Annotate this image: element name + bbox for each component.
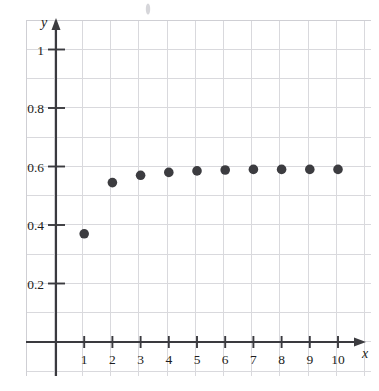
data-point (164, 168, 174, 178)
data-point (249, 165, 259, 175)
data-point (220, 165, 230, 175)
data-point (108, 178, 118, 188)
y-tick-label-1: 1 (37, 43, 44, 58)
chart-screenshot: 12345678910 0.20.40.60.81 x y (0, 0, 379, 391)
y-tick-label-0.6: 0.6 (27, 160, 44, 175)
data-point (333, 165, 343, 175)
x-tick-label-7: 7 (250, 352, 257, 367)
plot-surface: 12345678910 0.20.40.60.81 x y (0, 0, 379, 391)
paper-smudge-artifact (146, 4, 150, 15)
scatter-plot-svg: 12345678910 0.20.40.60.81 x y (0, 0, 379, 391)
data-point-group (79, 165, 342, 239)
x-tick-label-8: 8 (278, 352, 285, 367)
x-tick-label-4: 4 (165, 352, 172, 367)
x-tick-label-3: 3 (137, 352, 144, 367)
x-tick-label-5: 5 (194, 352, 201, 367)
x-tick-label-6: 6 (222, 352, 229, 367)
data-point (136, 171, 146, 181)
vertical-gridlines (26, 20, 364, 376)
y-tick-label-0.2: 0.2 (27, 277, 44, 292)
data-point (277, 165, 287, 175)
x-tick-label-10: 10 (331, 352, 345, 367)
horizontal-gridlines (26, 20, 371, 371)
data-point (192, 166, 202, 176)
x-tick-label-9: 9 (306, 352, 313, 367)
data-point (79, 229, 89, 239)
y-tick-label-0.8: 0.8 (27, 101, 44, 116)
x-tick-label-1: 1 (81, 352, 88, 367)
data-point (305, 165, 315, 175)
x-tick-label-2: 2 (109, 352, 116, 367)
y-axis-label: y (39, 15, 48, 30)
x-axis-tick-labels: 12345678910 (81, 352, 345, 367)
plot-frame (26, 20, 371, 376)
y-tick-label-0.4: 0.4 (27, 218, 44, 233)
x-axis-label: x (361, 346, 369, 361)
